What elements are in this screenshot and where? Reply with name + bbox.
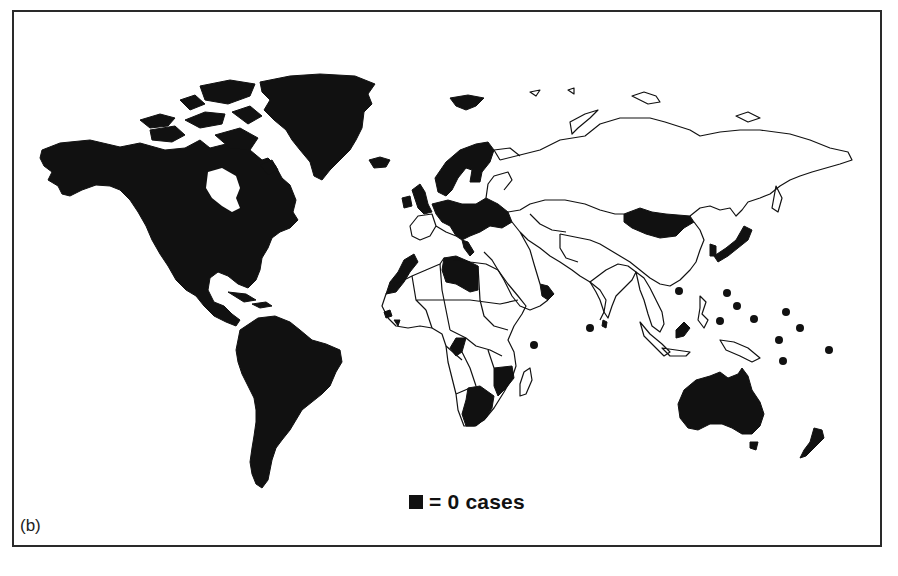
- island-marker: [675, 287, 683, 295]
- new-guinea-outline: [720, 340, 760, 362]
- island-marker: [825, 346, 833, 354]
- uk-region: [402, 184, 432, 214]
- legend-label: = 0 cases: [429, 490, 525, 514]
- tasmania-region: [750, 442, 758, 450]
- angola-region: [450, 338, 466, 356]
- island-marker: [716, 317, 724, 325]
- borneo-region: [676, 322, 690, 338]
- morocco-region: [386, 254, 418, 294]
- japan-region: [714, 226, 752, 262]
- caribbean-islands: [228, 292, 272, 308]
- west-africa-bits: [384, 310, 400, 326]
- island-marker: [750, 315, 758, 323]
- russia-outline: [500, 118, 852, 216]
- india-outline: [590, 264, 636, 318]
- oman-region: [540, 284, 554, 300]
- north-america-region: [40, 140, 298, 326]
- novaya-zemlya-outline: [570, 110, 598, 134]
- panel-label: (b): [20, 516, 41, 536]
- island-marker: [733, 302, 741, 310]
- iceland-region: [369, 157, 390, 168]
- franz-josef-outline: [530, 88, 660, 104]
- central-asia-outline: [508, 200, 624, 214]
- italy-region: [462, 240, 474, 256]
- island-marker: [586, 324, 594, 332]
- korea-region: [710, 244, 716, 256]
- new-zealand-region: [800, 428, 824, 458]
- greenland-region: [260, 74, 375, 180]
- island-marker: [775, 336, 783, 344]
- svalbard-region: [450, 95, 484, 110]
- madagascar-outline: [520, 368, 532, 396]
- legend-swatch-icon: [409, 495, 423, 509]
- mongolia-region: [624, 208, 694, 238]
- scandinavia-region: [435, 142, 494, 196]
- map-legend: = 0 cases: [409, 490, 525, 514]
- central-europe-region: [432, 198, 512, 240]
- island-marker: [530, 341, 538, 349]
- island-marker: [782, 308, 790, 316]
- island-marker: [796, 324, 804, 332]
- sri-lanka-region: [602, 320, 607, 328]
- libya-region: [442, 256, 478, 292]
- south-america-region: [236, 316, 342, 488]
- kamchatka-outline: [772, 186, 782, 212]
- australia-region: [678, 368, 764, 434]
- south-africa-region: [462, 386, 494, 426]
- new-siberian-outline: [736, 112, 760, 122]
- island-marker: [723, 289, 731, 297]
- philippines-outline: [698, 296, 708, 328]
- island-marker: [779, 357, 787, 365]
